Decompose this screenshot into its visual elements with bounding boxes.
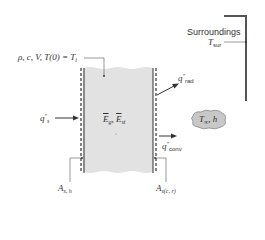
fluid-label: T∞, h [199, 115, 217, 125]
area-right-leader [155, 158, 166, 182]
flux-in-arrowhead [73, 116, 79, 121]
conv-arrowhead [171, 134, 177, 139]
flux-rad-label: q"rad [178, 73, 194, 84]
surroundings-temp: Tsur [208, 38, 221, 48]
rad-arrow [157, 86, 174, 95]
area-right-label: As(c, r) [156, 184, 176, 194]
area-left-leader [70, 158, 82, 182]
area-left-label: As, h [58, 184, 72, 194]
surroundings-title: Surroundings [187, 28, 241, 37]
properties-label: ρ, c, V, T(0) = Ti [18, 53, 77, 63]
flux-conv-label: q"conv [162, 141, 182, 152]
flux-in-label: q"s [40, 113, 49, 124]
energy-label: Eg, Est [103, 115, 126, 125]
